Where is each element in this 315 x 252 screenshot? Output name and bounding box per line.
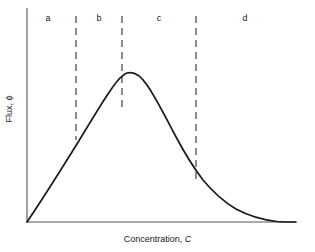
- region-label-a: a: [41, 13, 55, 24]
- flux-concentration-chart: a b c d Concentration, C Flux, ϕ: [0, 0, 315, 252]
- plot-area: [0, 0, 315, 252]
- region-label-b: b: [92, 13, 106, 24]
- x-axis-label: Concentration, C: [0, 234, 315, 244]
- flux-curve: [27, 73, 296, 222]
- y-axis-label-symbol: ϕ: [4, 95, 14, 103]
- y-axis-label-text: Flux,: [4, 103, 14, 123]
- x-axis-label-text: Concentration,: [124, 234, 183, 244]
- region-label-c: c: [152, 13, 166, 24]
- region-label-d: d: [238, 13, 252, 24]
- y-axis-label: Flux, ϕ: [4, 79, 14, 139]
- x-axis-label-symbol: C: [182, 234, 191, 244]
